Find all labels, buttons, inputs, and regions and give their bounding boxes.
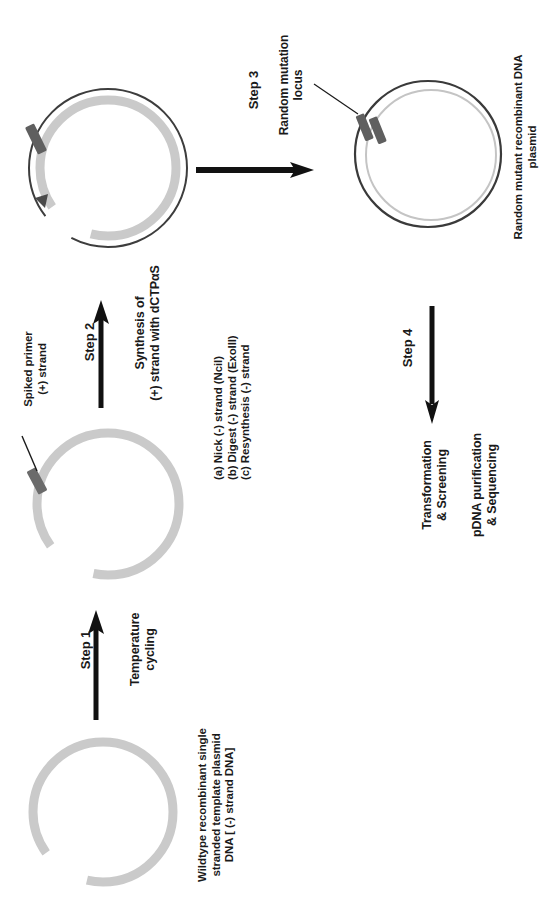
template-strand-ring — [40, 100, 176, 236]
step-4-description-purification: pDNA purification & Sequencing — [470, 410, 500, 560]
mutation-leader-line — [314, 84, 358, 114]
inner-dna-strand — [366, 90, 496, 220]
plasmid-4-random-mutant — [352, 62, 507, 247]
plasmid-4-mutation-annotation: Random mutation locus — [277, 30, 305, 140]
plasmid-1-caption: Wildtype recombinant single stranded tem… — [196, 710, 237, 900]
step-4-label: Step 4 — [400, 298, 415, 398]
plasmid-3-heteroduplex — [18, 72, 196, 262]
plasmid-1-wildtype-ss-template — [18, 722, 188, 902]
figure-canvas: Wildtype recombinant single stranded tem… — [0, 0, 552, 916]
step-1-description: Temperature cycling — [128, 587, 158, 712]
step-2-description: Synthesis of (+) strand with dCTPαS — [133, 248, 163, 418]
outer-dna-strand — [355, 81, 501, 227]
plasmid-4-svg — [352, 62, 507, 247]
plasmid-2-template-with-primer — [20, 412, 195, 597]
template-strand-ring — [37, 433, 179, 575]
plasmid-3-svg — [18, 72, 196, 262]
plasmid-1-svg — [18, 722, 188, 902]
plasmid-2-svg — [20, 412, 195, 597]
step-1-label: Step 1 — [78, 600, 93, 700]
template-strand-ring — [33, 742, 173, 882]
primer-leader-line — [22, 436, 37, 471]
new-plus-strand-ring — [29, 89, 187, 247]
step-3-arrow-svg — [196, 160, 314, 180]
step-2-label: Step 2 — [82, 292, 97, 392]
step-4-arrow — [422, 306, 442, 424]
plasmid-2-primer-annotation: Spiked primer (+) strand — [22, 323, 49, 415]
step-4-arrow-svg — [422, 306, 442, 424]
step-3-description: (a) Nick (-) strand (NciI) (b) Digest (-… — [212, 260, 253, 480]
plasmid-4-caption: Random mutant recombinant DNA plasmid — [512, 32, 539, 262]
step-3-label: Step 3 — [246, 40, 261, 140]
step-3-arrow — [196, 160, 314, 180]
step-4-description-transformation: Transformation & Screening — [420, 410, 450, 560]
